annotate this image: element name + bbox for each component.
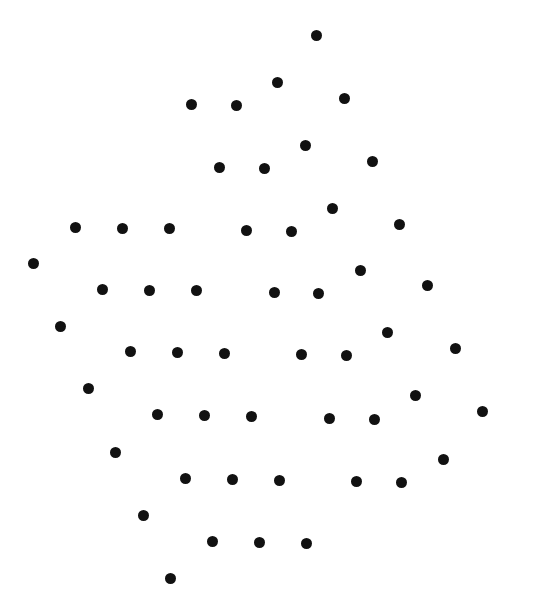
dot: [394, 219, 405, 230]
dot: [110, 447, 121, 458]
dot: [144, 285, 155, 296]
dot: [227, 474, 238, 485]
dot: [286, 226, 297, 237]
dot-pattern-canvas: [0, 0, 555, 614]
dot: [382, 327, 393, 338]
dot: [450, 343, 461, 354]
dot: [191, 285, 202, 296]
dot: [186, 99, 197, 110]
dot: [296, 349, 307, 360]
dot: [410, 390, 421, 401]
dot: [355, 265, 366, 276]
dot: [83, 383, 94, 394]
dot: [172, 347, 183, 358]
dot: [138, 510, 149, 521]
dot: [28, 258, 39, 269]
dot: [254, 537, 265, 548]
dot: [125, 346, 136, 357]
dot: [117, 223, 128, 234]
dot: [180, 473, 191, 484]
dot: [219, 348, 230, 359]
dot: [274, 475, 285, 486]
dot: [422, 280, 433, 291]
dot: [165, 573, 176, 584]
dot: [70, 222, 81, 233]
dot: [313, 288, 324, 299]
dot: [367, 156, 378, 167]
dot: [351, 476, 362, 487]
dot: [231, 100, 242, 111]
dot: [55, 321, 66, 332]
dot: [241, 225, 252, 236]
dot: [324, 413, 335, 424]
dot: [152, 409, 163, 420]
dot: [207, 536, 218, 547]
dot: [327, 203, 338, 214]
dot: [396, 477, 407, 488]
dot: [369, 414, 380, 425]
dot: [311, 30, 322, 41]
dot: [259, 163, 270, 174]
dot: [164, 223, 175, 234]
dot: [214, 162, 225, 173]
dot: [301, 538, 312, 549]
dot: [477, 406, 488, 417]
dot: [269, 287, 280, 298]
dot: [339, 93, 350, 104]
dot: [341, 350, 352, 361]
dot: [272, 77, 283, 88]
dot: [300, 140, 311, 151]
dot: [438, 454, 449, 465]
dot: [246, 411, 257, 422]
dot: [97, 284, 108, 295]
dot: [199, 410, 210, 421]
